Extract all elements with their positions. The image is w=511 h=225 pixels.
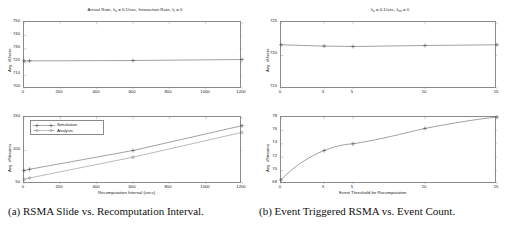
chart-a-bottom-xlabel: Recomputation Interval (secs) xyxy=(98,191,155,195)
panel-b: λa = 0.1/sec, λint = 0 Avg. #Users 725 7… xyxy=(255,0,511,225)
legend-label-analysis: Analysis xyxy=(57,129,73,133)
chart-b-bottom-svg xyxy=(281,117,497,184)
x-tick-label: 200 xyxy=(51,185,67,189)
y-tick-label: 720 xyxy=(263,51,277,55)
title-text: Arrival Rate, xyxy=(88,7,113,12)
x-tick-label: 400 xyxy=(88,185,104,189)
chart-b-top-svg xyxy=(281,22,497,89)
data-line-users xyxy=(281,45,497,47)
chart-a-top-title: Arrival Rate, λa = 0.1/sec, Interaction … xyxy=(30,8,240,13)
tick-marks xyxy=(281,117,497,184)
chart-b-bottom-xlabel: Event Threshold for Recomputation xyxy=(339,191,407,195)
x-tick-label: 15 xyxy=(488,185,504,189)
x-tick-label: 400 xyxy=(88,90,104,94)
x-tick-label: 200 xyxy=(51,90,67,94)
x-tick-label: 600 xyxy=(124,90,140,94)
x-tick-label: 3 xyxy=(315,90,331,94)
y-tick-label: 740 xyxy=(6,32,20,36)
x-tick-label: 0 xyxy=(15,185,31,189)
x-tick-label: 10 xyxy=(416,90,432,94)
x-tick-label: 800 xyxy=(160,90,176,94)
y-tick-label: 730 xyxy=(6,45,20,49)
x-tick-label: 1000 xyxy=(197,185,213,189)
legend-row-analysis: Analysis xyxy=(33,128,101,134)
y-tick-label: 725 xyxy=(263,19,277,23)
tick-marks xyxy=(281,22,497,89)
panel-b-caption: (b) Event Triggered RSMA vs. Event Count… xyxy=(259,206,455,217)
y-tick-label: 700 xyxy=(6,84,20,88)
y-tick-label: 150 xyxy=(6,114,20,118)
chart-b-bottom-plot xyxy=(280,116,496,183)
y-tick-label: 70 xyxy=(263,167,277,171)
x-tick-label: 15 xyxy=(488,90,504,94)
chart-a-top-plot xyxy=(23,21,241,88)
y-tick-label: 78 xyxy=(263,114,277,118)
x-tick-label: 1000 xyxy=(197,90,213,94)
title-text: = 0 xyxy=(175,7,182,12)
x-tick-label: 5 xyxy=(344,185,360,189)
data-markers xyxy=(279,115,499,182)
x-tick-label: 1200 xyxy=(233,90,249,94)
legend-marker-analysis xyxy=(33,128,55,133)
title-text: = 0.1/sec, xyxy=(375,7,397,12)
y-tick-label: 72 xyxy=(263,154,277,158)
panel-a: Arrival Rate, λa = 0.1/sec, Interaction … xyxy=(0,0,255,225)
panel-a-caption: (a) RSMA Slide vs. Recomputation Interva… xyxy=(8,206,204,217)
x-tick-label: 0 xyxy=(15,90,31,94)
y-tick-label: 50 xyxy=(6,180,20,184)
title-text: = 0.1/sec, Interaction Rate, xyxy=(117,7,172,12)
y-tick-label: 74 xyxy=(263,140,277,144)
legend-marker-simulation xyxy=(33,123,55,128)
y-tick-label: 720 xyxy=(6,58,20,62)
tick-marks xyxy=(24,22,242,89)
legend-label-simulation: Simulation xyxy=(57,123,77,127)
title-text: = 0 xyxy=(402,7,409,12)
data-line-streams xyxy=(281,117,497,180)
x-tick-label: 600 xyxy=(124,185,140,189)
x-tick-label: 0 xyxy=(272,185,288,189)
data-markers-analysis xyxy=(23,131,244,181)
y-tick-label: 100 xyxy=(6,147,20,151)
chart-a-top-svg xyxy=(24,22,242,89)
y-tick-label: 68 xyxy=(263,180,277,184)
x-tick-label: 0 xyxy=(272,90,288,94)
chart-b-top-plot xyxy=(280,21,496,88)
chart-a-bottom-legend: Simulation Analysis xyxy=(30,120,104,135)
y-tick-label: 76 xyxy=(263,127,277,131)
data-markers xyxy=(22,58,244,63)
y-tick-label: 715 xyxy=(263,84,277,88)
y-tick-label: 710 xyxy=(6,71,20,75)
x-tick-label: 10 xyxy=(416,185,432,189)
x-tick-label: 3 xyxy=(315,185,331,189)
y-tick-label: 750 xyxy=(6,19,20,23)
x-tick-label: 1200 xyxy=(233,185,249,189)
x-tick-label: 5 xyxy=(344,90,360,94)
x-tick-label: 800 xyxy=(160,185,176,189)
chart-b-top-title: λa = 0.1/sec, λint = 0 xyxy=(315,8,465,13)
figure-container: Arrival Rate, λa = 0.1/sec, Interaction … xyxy=(0,0,511,225)
